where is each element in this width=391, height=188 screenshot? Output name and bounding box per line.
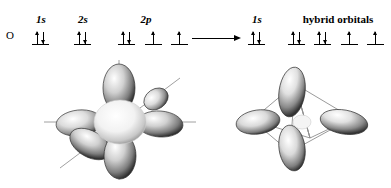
electron-arrows <box>288 29 305 44</box>
atomic-orbitals-illustration <box>34 52 204 188</box>
electron-arrow-up <box>317 31 322 44</box>
electron-arrows <box>32 29 49 44</box>
electron-arrow-down <box>257 31 262 44</box>
orbital-hybridization-figure: O 1s 2s 2p <box>0 0 391 188</box>
orbital-slot-hybrid-3[interactable] <box>341 28 358 45</box>
orbital-slot-2s[interactable] <box>74 28 91 45</box>
p-orbital-lobe-upper-right <box>140 83 173 114</box>
electron-arrow-up <box>347 31 352 44</box>
electron-arrow-down <box>83 31 88 44</box>
hybrid-lobe-left <box>235 107 282 137</box>
hybrid-lobe-top <box>276 65 309 118</box>
electron-arrows <box>145 29 162 44</box>
electron-arrow-up <box>35 31 40 44</box>
column-header-2p: 2p <box>135 13 157 25</box>
column-header-1s-left: 1s <box>30 13 52 25</box>
s-orbital-sphere <box>94 100 146 144</box>
column-header-1s-right: 1s <box>246 13 268 25</box>
electron-arrows <box>314 29 331 44</box>
hybrid-center <box>293 115 311 129</box>
orbital-slot-1s-left[interactable] <box>32 28 49 45</box>
electron-arrow-up <box>177 31 182 44</box>
electron-arrow-up <box>121 31 126 44</box>
electron-arrow-down <box>41 31 46 44</box>
electron-arrows <box>341 29 358 44</box>
electron-arrow-up <box>151 31 156 44</box>
electron-arrow-down <box>297 31 302 44</box>
electron-arrow-up <box>291 31 296 44</box>
orbital-slot-2p-x[interactable] <box>118 28 135 45</box>
orbital-slot-hybrid-2[interactable] <box>314 28 331 45</box>
electron-arrows <box>118 29 135 44</box>
sp3-hybrid-orbitals-illustration <box>232 56 382 182</box>
electron-arrow-down <box>127 31 132 44</box>
electron-arrow-up <box>251 31 256 44</box>
orbital-slot-2p-y[interactable] <box>145 28 162 45</box>
electron-arrow-down <box>323 31 328 44</box>
orbital-slot-2p-z[interactable] <box>171 28 188 45</box>
electron-configuration-diagram: O 1s 2s 2p <box>0 0 391 50</box>
electron-arrow-up <box>77 31 82 44</box>
atom-label: O <box>6 29 14 41</box>
orbital-slot-hybrid-4[interactable] <box>367 28 384 45</box>
hybrid-lobe-right <box>318 106 369 138</box>
transformation-arrow-icon <box>192 35 241 42</box>
hybrid-lobe-bottom <box>276 123 308 172</box>
electron-arrows <box>74 29 91 44</box>
orbital-slot-1s-right[interactable] <box>248 28 265 45</box>
column-header-hybrid-orbitals: hybrid orbitals <box>288 13 388 25</box>
electron-arrow-up <box>373 31 378 44</box>
column-header-2s: 2s <box>72 13 94 25</box>
orbital-slot-hybrid-1[interactable] <box>288 28 305 45</box>
electron-arrows <box>367 29 384 44</box>
electron-arrows <box>248 29 265 44</box>
electron-arrows <box>171 29 188 44</box>
